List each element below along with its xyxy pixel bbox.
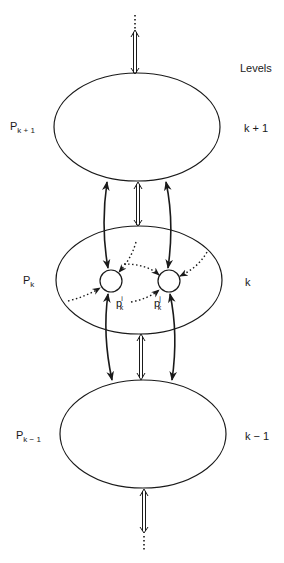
subprocess-superscript: i [121,295,123,302]
subprocess-label-i: pik [116,298,127,309]
dotted-link-pi-lower [68,288,100,301]
process-label-k-plus-1: Pk + 1 [10,121,35,135]
level-k-plus-1-ellipse [54,73,220,181]
process-subscript: k + 1 [17,126,35,135]
hierarchy-diagram [0,0,284,563]
level-k-ellipse [56,226,222,334]
subprocess-j-circle [158,270,180,292]
process-subscript: k [30,280,34,289]
subprocess-superscript: j [159,295,161,302]
level-k-minus-1-ellipse [60,380,226,488]
link-kplus1-to-pi [104,182,108,268]
levels-heading: Levels [240,63,272,74]
bottom-double-arrow [140,489,148,533]
dotted-link-pj-upper [180,252,207,276]
lower-double-arrow [137,334,145,380]
level-label-k-plus-1: k + 1 [244,123,268,134]
link-pi-to-kminus1 [106,294,112,380]
dotted-link-pi-pj [124,264,159,275]
level-label-k: k [245,277,251,288]
top-double-arrow [131,30,139,74]
subprocess-label-j: pjk [154,298,165,309]
subprocess-subscript: k [120,304,124,311]
process-subscript: k − 1 [23,435,41,444]
subprocess-subscript: k [158,304,162,311]
process-label-k-minus-1: Pk − 1 [16,430,41,444]
dotted-link-pi-upper [119,242,136,272]
subprocess-i-circle [100,270,122,292]
process-label-k: Pk [23,275,34,289]
upper-double-arrow [134,182,142,226]
level-label-k-minus-1: k − 1 [245,431,269,442]
link-pj-to-kminus1 [170,294,175,380]
link-kplus1-to-pj [166,182,171,268]
